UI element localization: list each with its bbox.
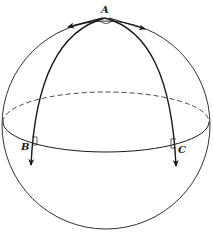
- label-b: B: [20, 141, 29, 152]
- label-c: C: [178, 144, 186, 155]
- equator-back-dashed: [3, 92, 209, 122]
- meridian-a-to-b: [31, 18, 105, 165]
- label-a: A: [100, 4, 109, 15]
- sphere-outline: [2, 21, 210, 229]
- spherical-triangle-diagram: A B C: [0, 0, 213, 232]
